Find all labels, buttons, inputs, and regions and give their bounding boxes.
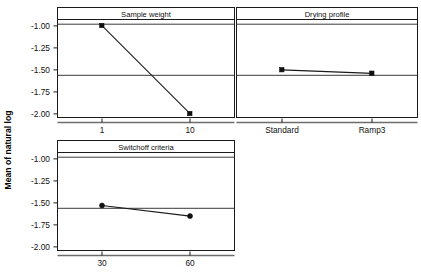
y-tick-label: -1.75 bbox=[31, 220, 50, 230]
y-tick-label: -2.00 bbox=[31, 242, 50, 252]
y-tick-label: -1.75 bbox=[31, 87, 50, 97]
main-effects-plot: Mean of natural log Sample weight -1.00 … bbox=[0, 0, 421, 274]
x-tick-label: 10 bbox=[185, 125, 195, 135]
x-tick-label: Ramp3 bbox=[359, 125, 386, 135]
x-tick-label: 30 bbox=[97, 258, 107, 268]
data-point bbox=[188, 214, 193, 219]
y-tick-label: -1.00 bbox=[31, 21, 50, 31]
panel-title-sample-weight: Sample weight bbox=[121, 10, 172, 19]
y-tick-label: -1.50 bbox=[31, 198, 50, 208]
series-line-switchoff-criteria bbox=[102, 206, 190, 217]
panel-title-drying-profile: Drying profile bbox=[305, 10, 350, 19]
y-ticks-row2 bbox=[54, 159, 58, 247]
panel-sample-weight: Sample weight -1.00 -1.25 -1.50 -1.75 -2… bbox=[31, 8, 234, 135]
y-tick-label: -1.25 bbox=[31, 176, 50, 186]
y-tick-label: -1.25 bbox=[31, 43, 50, 53]
x-tick-label: Standard bbox=[265, 125, 299, 135]
panel-drying-profile: Drying profile Standard Ramp3 bbox=[237, 8, 418, 135]
y-ticks-row1 bbox=[54, 26, 58, 114]
y-tick-labels-row1: -1.00 -1.25 -1.50 -1.75 -2.00 bbox=[31, 21, 50, 119]
y-tick-label: -2.00 bbox=[31, 109, 50, 119]
panel-title-switchoff-criteria: Switchoff criteria bbox=[118, 143, 174, 152]
data-point bbox=[100, 203, 105, 208]
x-tick-label: 60 bbox=[185, 258, 195, 268]
data-point bbox=[100, 23, 104, 27]
panel-switchoff-criteria: Switchoff criteria -1.00 -1.25 -1.50 -1.… bbox=[31, 141, 234, 268]
y-tick-label: -1.50 bbox=[31, 65, 50, 75]
data-point bbox=[280, 68, 284, 72]
data-point bbox=[370, 71, 374, 75]
y-axis-title: Mean of natural log bbox=[3, 111, 13, 190]
x-tick-label: 1 bbox=[100, 125, 105, 135]
series-line-drying-profile bbox=[282, 70, 372, 74]
data-point bbox=[188, 111, 192, 115]
y-tick-labels-row2: -1.00 -1.25 -1.50 -1.75 -2.00 bbox=[31, 154, 50, 252]
series-line-sample-weight bbox=[102, 26, 190, 114]
y-tick-label: -1.00 bbox=[31, 154, 50, 164]
chart-canvas: Mean of natural log Sample weight -1.00 … bbox=[0, 0, 421, 274]
